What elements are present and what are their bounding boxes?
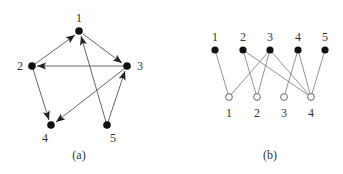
node-b-top-5 <box>321 46 328 53</box>
graph-a: 1 2 3 4 5 (a) <box>17 11 143 162</box>
node-b-top-2-label: 2 <box>240 30 246 44</box>
edge-3-to-4 <box>56 69 124 122</box>
edge-2-to-1 <box>35 35 75 64</box>
edge-2-to-4 <box>33 69 49 120</box>
edge-1-to-3 <box>83 34 122 63</box>
edge-5-to-3 <box>108 71 125 122</box>
caption-a: (a) <box>72 148 85 162</box>
edge-t4-b3 <box>284 50 298 97</box>
node-b-top-2 <box>239 46 246 53</box>
node-a-4 <box>47 121 55 129</box>
node-b-top-3 <box>266 46 273 53</box>
node-b-top-5-label: 5 <box>322 30 328 44</box>
node-b-bottom-4 <box>308 94 315 101</box>
graph-b: 1 2 3 4 5 1 2 3 4 (b) <box>211 30 328 162</box>
node-b-bottom-2-label: 2 <box>254 106 260 120</box>
node-b-top-1-label: 1 <box>212 30 218 44</box>
node-b-top-1 <box>211 46 218 53</box>
node-a-3-label: 3 <box>137 59 143 73</box>
diagram-canvas: 1 2 3 4 5 (a) 1 2 3 4 5 1 2 <box>0 0 343 174</box>
node-b-bottom-3 <box>281 94 288 101</box>
node-b-bottom-3-label: 3 <box>281 106 287 120</box>
edge-t1-b1 <box>215 50 229 97</box>
node-b-top-4-label: 4 <box>295 30 301 44</box>
node-a-5-label: 5 <box>110 131 116 145</box>
node-a-1-label: 1 <box>76 11 82 25</box>
node-b-bottom-2 <box>254 94 261 101</box>
edge-t2-b4 <box>243 50 311 97</box>
node-a-2 <box>28 62 36 70</box>
caption-b: (b) <box>263 148 277 162</box>
node-b-top-3-label: 3 <box>267 30 273 44</box>
node-b-bottom-4-label: 4 <box>308 106 314 120</box>
node-a-1 <box>75 27 83 35</box>
node-b-bottom-1-label: 1 <box>226 106 232 120</box>
node-a-5 <box>103 121 111 129</box>
node-b-bottom-1 <box>226 94 233 101</box>
edge-t5-b4 <box>311 50 325 97</box>
edge-5-to-1 <box>81 36 106 122</box>
node-a-3 <box>123 62 131 70</box>
node-b-top-4 <box>294 46 301 53</box>
node-a-2-label: 2 <box>17 59 23 73</box>
node-a-4-label: 4 <box>42 131 48 145</box>
